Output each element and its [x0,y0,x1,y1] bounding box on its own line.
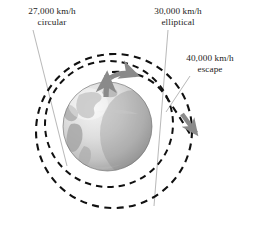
earth-terminator-shadow [100,90,168,178]
diagram-canvas [0,0,255,225]
callout-elliptical-speed: 30,000 km/h [126,6,230,17]
callout-escape: 40,000 km/h escape [168,53,252,76]
callout-elliptical-kind: elliptical [126,17,230,28]
earth-landmasses [63,87,168,178]
callout-circular-kind: circular [4,17,100,28]
callout-circular-speed: 27,000 km/h [4,6,100,17]
earth-globe [63,82,168,178]
orbital-velocity-diagram: 27,000 km/h circular 30,000 km/h ellipti… [0,0,255,225]
earth-specular-highlight [68,88,108,120]
callout-escape-speed: 40,000 km/h [168,53,252,64]
callout-escape-kind: escape [168,64,252,75]
launch-arrow [106,75,107,97]
escape-arrow [182,114,196,133]
orbit-insertion-arrow [110,73,136,78]
leader-line-elliptical [154,30,168,206]
callout-circular: 27,000 km/h circular [4,6,100,29]
callout-elliptical: 30,000 km/h elliptical [126,6,230,29]
